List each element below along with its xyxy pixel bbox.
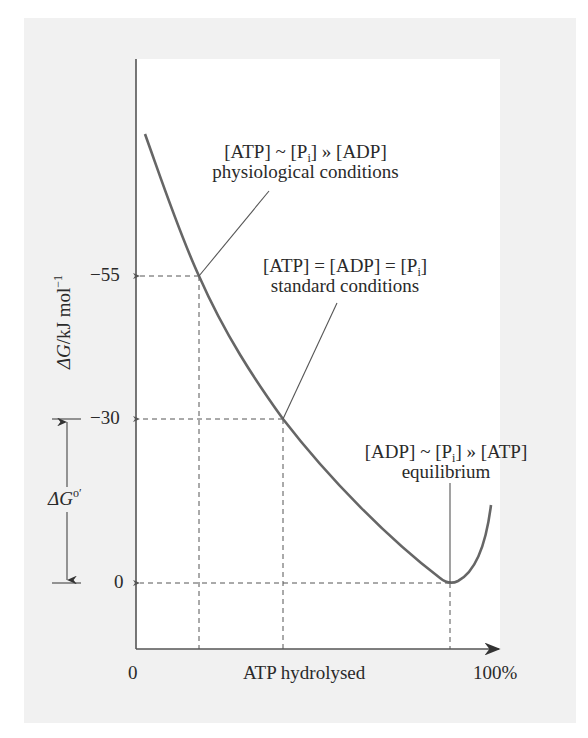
- x-tick-0: 0: [128, 663, 138, 683]
- x-axis-label: ATP hydrolysed: [243, 663, 365, 683]
- delta-g-curve: [145, 134, 491, 583]
- y-tick-0: 0: [114, 572, 124, 592]
- annotation-standard: [ATP] = [ADP] = [Pi] standard conditions: [240, 256, 450, 296]
- y-axis-label-unit: /kJ mol: [53, 288, 74, 344]
- y-axis-label-symbol: ΔG: [53, 344, 74, 369]
- annotation-physiological-caption: physiological conditions: [193, 162, 418, 182]
- delta-g-standard-superscript: o′: [73, 486, 82, 500]
- ann2-part-a: [ATP] = [ADP] = [P: [263, 255, 417, 276]
- annotation-standard-caption: standard conditions: [240, 276, 450, 296]
- ann1-part-b: ] » [ADP]: [311, 141, 387, 162]
- delta-g-standard-symbol: ΔG: [48, 488, 73, 509]
- x-tick-100: 100%: [473, 663, 517, 683]
- annotation-equilibrium-caption: equilibrium: [344, 462, 548, 482]
- ann3-part-a: [ADP] ~ [P: [365, 441, 452, 462]
- annotation-standard-condition: [ATP] = [ADP] = [Pi]: [240, 256, 450, 276]
- chart-svg: [0, 0, 588, 738]
- y-axis-label-exponent: −1: [51, 275, 65, 288]
- annotation-equilibrium: [ADP] ~ [Pi] » [ATP] equilibrium: [344, 442, 548, 482]
- ann1-part-a: [ATP] ~ [P: [224, 141, 307, 162]
- annotation-physiological-condition: [ATP] ~ [Pi] » [ADP]: [193, 142, 418, 162]
- annotation-equilibrium-condition: [ADP] ~ [Pi] » [ATP]: [344, 442, 548, 462]
- ann2-part-b: ]: [421, 255, 427, 276]
- annotation-physiological: [ATP] ~ [Pi] » [ADP] physiological condi…: [193, 142, 418, 182]
- leader-lines: [199, 191, 450, 583]
- ann3-part-b: ] » [ATP]: [455, 441, 527, 462]
- delta-g-standard-label: ΔGo′: [48, 489, 82, 509]
- y-tick-minus-30: −30: [90, 408, 120, 428]
- y-axis-label: ΔG/kJ mol−1: [53, 275, 75, 369]
- y-tick-minus-55: −55: [90, 265, 120, 285]
